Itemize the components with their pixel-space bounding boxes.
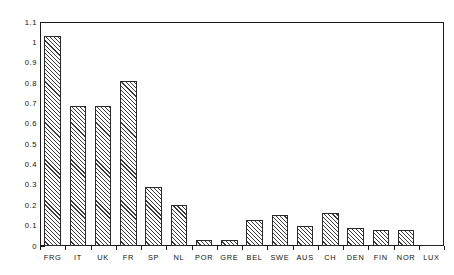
x-axis-tick-label: NL: [173, 253, 184, 262]
x-axis-tick-label: LUX: [423, 253, 439, 262]
bar: [272, 215, 289, 246]
x-axis-tick-mark: [267, 246, 268, 250]
x-axis-tick-label: DEN: [347, 253, 365, 262]
bar: [145, 187, 162, 246]
x-axis-tick-label: SP: [148, 253, 159, 262]
x-axis-tick-mark: [217, 246, 218, 250]
y-axis-tick-label: 0.6: [25, 119, 40, 128]
x-axis-tick-mark: [116, 246, 117, 250]
x-axis-tick-mark: [166, 246, 167, 250]
x-axis-tick-label: FR: [123, 253, 134, 262]
bar: [120, 81, 137, 246]
x-axis: FRGITUKFRSPNLPORGREBELSWEAUSCHDENFINNORL…: [40, 246, 444, 275]
x-axis-tick-mark: [318, 246, 319, 250]
bar: [347, 228, 364, 246]
x-axis-tick-mark: [192, 246, 193, 250]
bar: [246, 220, 263, 246]
y-axis-tick-label: 0.8: [25, 78, 40, 87]
bar: [95, 106, 112, 247]
x-axis-tick-label: POR: [195, 253, 213, 262]
bar-chart: 1.110.90.80.70.60.50.40.30.20.10 FRGITUK…: [0, 0, 454, 275]
x-axis-tick-label: UK: [97, 253, 109, 262]
x-axis-tick-label: BEL: [247, 253, 263, 262]
x-axis-tick-mark: [444, 246, 445, 250]
y-axis-tick-label: 1: [32, 38, 40, 47]
x-axis-tick-mark: [419, 246, 420, 250]
y-axis-tick-label: 0.9: [25, 58, 40, 67]
bar: [373, 230, 390, 246]
y-axis-tick-label: 0.2: [25, 201, 40, 210]
x-axis-tick-mark: [91, 246, 92, 250]
x-axis-tick-label: FRG: [44, 253, 62, 262]
x-axis-tick-label: GRE: [220, 253, 238, 262]
x-axis-tick-mark: [343, 246, 344, 250]
x-axis-tick-label: SWE: [270, 253, 289, 262]
x-axis-tick-label: CH: [324, 253, 336, 262]
x-axis-tick-mark: [40, 246, 41, 250]
x-axis-tick-mark: [394, 246, 395, 250]
x-axis-tick-mark: [65, 246, 66, 250]
x-axis-tick-label: FIN: [374, 253, 388, 262]
bar: [398, 230, 415, 246]
bar: [171, 205, 188, 246]
y-axis-tick-label: 0.5: [25, 139, 40, 148]
y-axis: 1.110.90.80.70.60.50.40.30.20.10: [0, 22, 40, 246]
y-axis-tick-label: 1.1: [25, 17, 40, 26]
x-axis-tick-mark: [141, 246, 142, 250]
y-axis-tick-label: 0.4: [25, 160, 40, 169]
bar: [322, 213, 339, 246]
y-axis-tick-label: 0.3: [25, 180, 40, 189]
y-axis-tick-label: 0.7: [25, 99, 40, 108]
y-axis-tick-label: 0.1: [25, 221, 40, 230]
bar: [297, 226, 314, 246]
x-axis-tick-label: IT: [74, 253, 82, 262]
x-axis-tick-label: NOR: [397, 253, 416, 262]
bar: [70, 106, 87, 247]
x-axis-tick-label: AUS: [296, 253, 313, 262]
x-axis-tick-mark: [293, 246, 294, 250]
bars-layer: [40, 22, 444, 246]
bar: [44, 36, 61, 246]
x-axis-tick-mark: [242, 246, 243, 250]
y-axis-tick-label: 0: [32, 241, 40, 250]
x-axis-tick-mark: [368, 246, 369, 250]
